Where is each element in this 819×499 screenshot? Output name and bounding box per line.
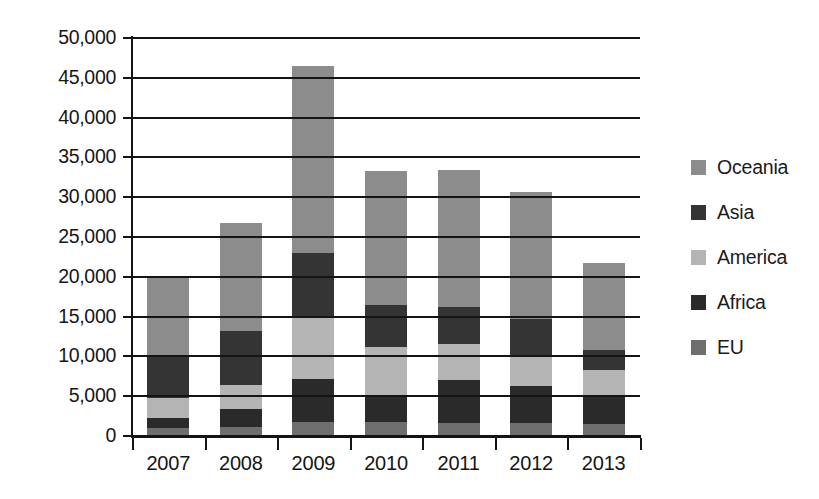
x-tick-mark — [640, 438, 642, 450]
x-axis-line — [131, 435, 641, 438]
bar-segment-2008-asia[interactable] — [220, 331, 262, 385]
gridline — [132, 196, 640, 198]
legend-label: Asia — [717, 202, 754, 222]
legend-item-oceania[interactable]: Oceania — [691, 157, 788, 177]
bar-segment-2009-asia[interactable] — [292, 253, 334, 317]
bar-segment-2013-africa[interactable] — [583, 396, 625, 424]
gridline — [132, 316, 640, 318]
legend-item-asia[interactable]: Asia — [691, 202, 788, 222]
gridline — [132, 236, 640, 238]
bar-segment-2012-africa[interactable] — [510, 386, 552, 423]
x-tick-mark — [205, 438, 207, 450]
bar-segment-2010-america[interactable] — [365, 347, 407, 396]
legend-swatch-icon — [691, 205, 706, 220]
bar-segment-2011-oceania[interactable] — [438, 170, 480, 307]
x-tick-mark — [132, 438, 134, 450]
bar-segment-2007-america[interactable] — [147, 398, 189, 419]
y-tick-label: 5,000 — [8, 386, 116, 406]
y-tick-label: 10,000 — [8, 346, 116, 366]
bar-segment-2009-eu[interactable] — [292, 422, 334, 436]
y-tick-mark — [123, 316, 132, 318]
x-tick-mark — [495, 438, 497, 450]
x-tick-mark — [350, 438, 352, 450]
bar-segment-2009-oceania[interactable] — [292, 66, 334, 253]
y-tick-mark — [123, 355, 132, 357]
y-tick-label: 15,000 — [8, 307, 116, 327]
gridline — [132, 395, 640, 397]
gridline — [132, 276, 640, 278]
y-tick-mark — [123, 156, 132, 158]
bar-segment-2011-africa[interactable] — [438, 380, 480, 423]
bar-segment-2007-africa[interactable] — [147, 418, 189, 428]
legend-label: EU — [717, 337, 744, 357]
bar-segment-2010-africa[interactable] — [365, 396, 407, 422]
y-tick-label: 20,000 — [8, 267, 116, 287]
bar-segment-2012-oceania[interactable] — [510, 192, 552, 319]
bar-segment-2010-eu[interactable] — [365, 422, 407, 436]
bar-segment-2011-asia[interactable] — [438, 307, 480, 344]
legend-item-africa[interactable]: Africa — [691, 292, 788, 312]
bar-segment-2012-america[interactable] — [510, 356, 552, 385]
gridline — [132, 156, 640, 158]
gridline — [132, 117, 640, 119]
legend-item-america[interactable]: America — [691, 247, 788, 267]
legend-swatch-icon — [691, 340, 706, 355]
stacked-bar-chart: 50,00045,00040,00035,00030,00025,00020,0… — [0, 0, 819, 499]
y-tick-label: 0 — [8, 426, 116, 446]
legend-swatch-icon — [691, 295, 706, 310]
y-tick-mark — [123, 276, 132, 278]
gridline — [132, 37, 640, 39]
y-tick-mark — [123, 395, 132, 397]
y-tick-label: 30,000 — [8, 187, 116, 207]
x-tick-label-2013: 2013 — [559, 452, 649, 474]
legend-swatch-icon — [691, 160, 706, 175]
chart-legend: OceaniaAsiaAmericaAfricaEU — [691, 157, 788, 357]
y-tick-mark — [123, 236, 132, 238]
legend-item-eu[interactable]: EU — [691, 337, 788, 357]
bar-segment-2013-america[interactable] — [583, 370, 625, 396]
y-tick-label: 45,000 — [8, 68, 116, 88]
legend-swatch-icon — [691, 250, 706, 265]
x-tick-mark — [422, 438, 424, 450]
legend-label: America — [717, 247, 787, 267]
bar-segment-2013-asia[interactable] — [583, 350, 625, 370]
bar-segment-2010-asia[interactable] — [365, 305, 407, 347]
bar-segment-2009-america[interactable] — [292, 317, 334, 379]
bar-segment-2008-africa[interactable] — [220, 409, 262, 427]
y-tick-label: 50,000 — [8, 28, 116, 48]
plot-area — [132, 38, 640, 436]
bar-segment-2011-america[interactable] — [438, 344, 480, 380]
bar-segment-2007-asia[interactable] — [147, 356, 189, 397]
y-tick-mark — [123, 117, 132, 119]
bar-segment-2009-africa[interactable] — [292, 379, 334, 422]
y-tick-mark — [123, 196, 132, 198]
y-tick-label: 25,000 — [8, 227, 116, 247]
y-tick-label: 35,000 — [8, 147, 116, 167]
gridline — [132, 77, 640, 79]
legend-label: Africa — [717, 292, 766, 312]
x-tick-mark — [277, 438, 279, 450]
y-tick-mark — [123, 37, 132, 39]
y-tick-mark — [123, 77, 132, 79]
legend-label: Oceania — [717, 157, 788, 177]
x-tick-mark — [567, 438, 569, 450]
bar-segment-2012-asia[interactable] — [510, 319, 552, 356]
y-tick-label: 40,000 — [8, 108, 116, 128]
gridline — [132, 355, 640, 357]
